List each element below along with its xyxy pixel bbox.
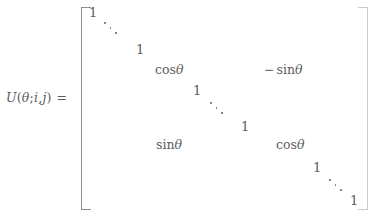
matrix-entry-one-mid-upper: 1 <box>193 84 201 97</box>
theta-symbol: θ <box>295 62 303 77</box>
cropped-text-bottom <box>2 209 172 217</box>
function-name-U: U <box>6 90 17 105</box>
diagonal-ellipsis-middle <box>210 102 226 116</box>
matrix-entry-cos-theta-ii: cosθ <box>155 64 183 77</box>
close-paren: ) <box>46 90 51 105</box>
matrix-entry-one-after-j: 1 <box>313 161 321 174</box>
matrix-entry-one-mid-lower: 1 <box>241 120 249 133</box>
sin-label: sin <box>276 62 294 77</box>
cos-label: cos <box>276 137 297 152</box>
matrix-close-bracket <box>358 7 368 210</box>
equals-sign: = <box>57 90 68 105</box>
matrix-open-bracket <box>81 7 91 210</box>
minus-sign: − <box>264 62 274 77</box>
matrix-entry-one-bottom: 1 <box>350 194 358 207</box>
sin-label: sin <box>156 137 174 152</box>
theta-symbol: θ <box>176 62 184 77</box>
matrix-entry-cos-theta-jj: cosθ <box>276 139 304 152</box>
cos-label: cos <box>155 62 176 77</box>
matrix-entry-one-top: 1 <box>89 6 97 19</box>
diagonal-ellipsis-lower <box>329 179 345 193</box>
matrix-entry-sin-theta-ji: sinθ <box>156 139 182 152</box>
equation-figure: U(θ;i,j)= 1 1 cosθ −sinθ 1 1 sinθ cosθ 1… <box>0 0 377 217</box>
theta-symbol: θ <box>297 137 305 152</box>
diagonal-ellipsis-upper <box>104 22 120 36</box>
matrix-entry-minus-sin-theta-ij: −sinθ <box>264 64 302 77</box>
matrix-entry-one-before-i: 1 <box>136 43 144 56</box>
theta-symbol: θ <box>22 90 30 105</box>
theta-symbol: θ <box>174 137 182 152</box>
equation-left-hand-side: U(θ;i,j)= <box>6 90 67 105</box>
cropped-text-top <box>112 0 262 3</box>
